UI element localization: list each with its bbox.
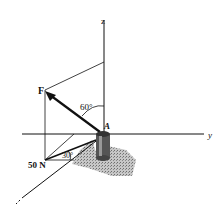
z-axis-label: z xyxy=(101,17,105,26)
projection-line-top xyxy=(45,62,104,90)
point-a-label: A xyxy=(104,122,110,131)
y-axis-label: y xyxy=(208,131,212,140)
force-diagram xyxy=(0,0,224,224)
force-vector-f xyxy=(50,95,100,132)
force-label: F xyxy=(38,86,44,96)
angle-30-label: 30° xyxy=(62,152,73,160)
magnitude-label: 50 N xyxy=(28,161,46,170)
post xyxy=(96,134,110,158)
angle-60-label: 60° xyxy=(80,103,93,112)
